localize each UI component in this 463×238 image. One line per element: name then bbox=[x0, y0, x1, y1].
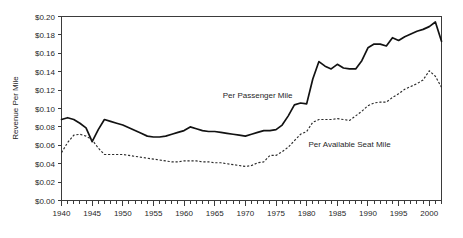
y-axis-title-group: Revenue Per Mile bbox=[11, 76, 20, 140]
axis-frame bbox=[62, 17, 442, 201]
y-axis-tick-label: $0.20 bbox=[35, 13, 56, 22]
chart-container: $0.20$0.18$0.16$0.14$0.12$0.10$0.08$0.06… bbox=[0, 0, 463, 238]
x-axis-tick-label: 1940 bbox=[53, 209, 71, 218]
y-axis-tick-label: $0.04 bbox=[35, 160, 56, 169]
y-axis-tick-label: $0.16 bbox=[35, 49, 56, 58]
plot-frame bbox=[62, 17, 442, 201]
series-line-2 bbox=[62, 71, 442, 167]
y-axis-tick-label: $0.12 bbox=[35, 86, 56, 95]
y-axis-tick-labels: $0.20$0.18$0.16$0.14$0.12$0.10$0.08$0.06… bbox=[35, 13, 56, 206]
x-axis-tick-label: 1990 bbox=[359, 209, 377, 218]
y-axis-tick-label: $0.06 bbox=[35, 141, 56, 150]
series-line-1 bbox=[62, 22, 442, 142]
x-axis-tick-label: 1950 bbox=[114, 209, 132, 218]
series-annotation-label: Per Available Seat Mile bbox=[309, 140, 392, 149]
y-axis-title: Revenue Per Mile bbox=[11, 76, 20, 140]
revenue-per-mile-line-chart: $0.20$0.18$0.16$0.14$0.12$0.10$0.08$0.06… bbox=[0, 0, 463, 238]
x-axis-tick-label: 1945 bbox=[83, 209, 101, 218]
x-axis-ticks bbox=[62, 201, 442, 207]
x-axis-tick-label: 1980 bbox=[298, 209, 316, 218]
y-axis-tick-label: $0.02 bbox=[35, 178, 56, 187]
x-axis-tick-label: 1960 bbox=[175, 209, 193, 218]
x-axis-tick-label: 1985 bbox=[328, 209, 346, 218]
y-axis-tick-label: $0.14 bbox=[35, 68, 56, 77]
y-axis-tick-label: $0.00 bbox=[35, 197, 56, 206]
y-axis-tick-label: $0.08 bbox=[35, 123, 56, 132]
x-axis-tick-labels: 1940194519501955196019651970197519801985… bbox=[53, 209, 439, 218]
x-axis-tick-label: 2000 bbox=[420, 209, 438, 218]
x-axis-tick-label: 1970 bbox=[236, 209, 254, 218]
x-axis-tick-label: 1955 bbox=[145, 209, 163, 218]
series-annotation-label: Per Passenger Mile bbox=[223, 91, 293, 100]
y-axis-tick-label: $0.18 bbox=[35, 31, 56, 40]
x-axis-tick-label: 1975 bbox=[267, 209, 285, 218]
y-axis-ticks bbox=[58, 17, 62, 201]
x-axis-tick-label: 1995 bbox=[390, 209, 408, 218]
x-axis-tick-label: 1965 bbox=[206, 209, 224, 218]
y-axis-tick-label: $0.10 bbox=[35, 105, 56, 114]
